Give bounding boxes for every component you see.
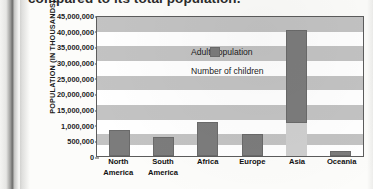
y-axis-tick-label: 0 [34, 153, 94, 162]
y-axis-tick-label: 25,000,000 [34, 74, 94, 83]
legend-swatch-adult-icon [210, 47, 220, 57]
bar-column[interactable] [230, 17, 274, 156]
bar-column[interactable] [97, 17, 141, 156]
plot-area: Adult population Number of children [96, 16, 364, 157]
legend: Adult population Number of children [191, 45, 264, 83]
y-axis-tick-label: 500,000 [34, 137, 94, 146]
bar-children[interactable] [286, 123, 307, 156]
book-spine [0, 0, 22, 189]
scanned-page: compared to its total population. POPULA… [0, 0, 373, 189]
x-axis-label-line: North [96, 157, 141, 168]
y-axis-tick-label: 30,000,000 [34, 59, 94, 68]
legend-label-children: Number of children [191, 66, 264, 76]
bar-group [97, 17, 363, 156]
bar-adult[interactable] [197, 122, 218, 156]
x-axis-label-line: Africa [185, 157, 230, 168]
x-axis-category-label: Oceania [319, 157, 364, 187]
x-axis-category-label: Africa [185, 157, 230, 187]
y-axis-tick-label: 40,000,000 [34, 27, 94, 36]
x-axis-category-label: NorthAmerica [96, 157, 141, 187]
y-axis-tick-label: 1,000,000 [34, 121, 94, 130]
x-axis-label-line: Oceania [319, 157, 364, 168]
x-axis-label-line: South [141, 157, 186, 168]
legend-label-adult: Adult population [191, 47, 253, 57]
y-axis-tick-label: 15,000,000 [34, 106, 94, 115]
y-axis-tick-label: 45,000,000 [34, 12, 94, 21]
bar-adult[interactable] [286, 30, 307, 123]
bar-column[interactable] [186, 17, 230, 156]
legend-swatch-children-icon [210, 73, 220, 83]
x-axis-category-label: Europe [230, 157, 275, 187]
y-axis-tick-label: 35,000,000 [34, 43, 94, 52]
y-axis-ticks: 45,000,00040,000,00035,000,00030,000,000… [34, 12, 94, 189]
bar-adult[interactable] [330, 151, 351, 156]
bar-chart: POPULATION (IN THOUSANDS) 45,000,00040,0… [26, 12, 368, 189]
bar-column[interactable] [319, 17, 363, 156]
x-axis-label-line: America [141, 168, 186, 179]
y-axis-tick-label: 20,000,000 [34, 90, 94, 99]
legend-item-children: Number of children [191, 64, 264, 77]
x-axis-category-label: SouthAmerica [141, 157, 186, 187]
bar-adult[interactable] [153, 137, 174, 156]
caption-text: compared to its total population. [28, 0, 358, 9]
legend-item-adult: Adult population [191, 45, 264, 58]
x-axis-category-label: Asia [275, 157, 320, 187]
x-axis-label-line: Asia [275, 157, 320, 168]
x-axis-label-line: Europe [230, 157, 275, 168]
bar-column[interactable] [141, 17, 185, 156]
x-axis-labels: NorthAmericaSouthAmericaAfricaEuropeAsia… [96, 157, 364, 187]
bar-adult[interactable] [109, 130, 130, 156]
x-axis-label-line: America [96, 168, 141, 179]
bar-adult[interactable] [242, 134, 263, 156]
bar-column[interactable] [274, 17, 318, 156]
